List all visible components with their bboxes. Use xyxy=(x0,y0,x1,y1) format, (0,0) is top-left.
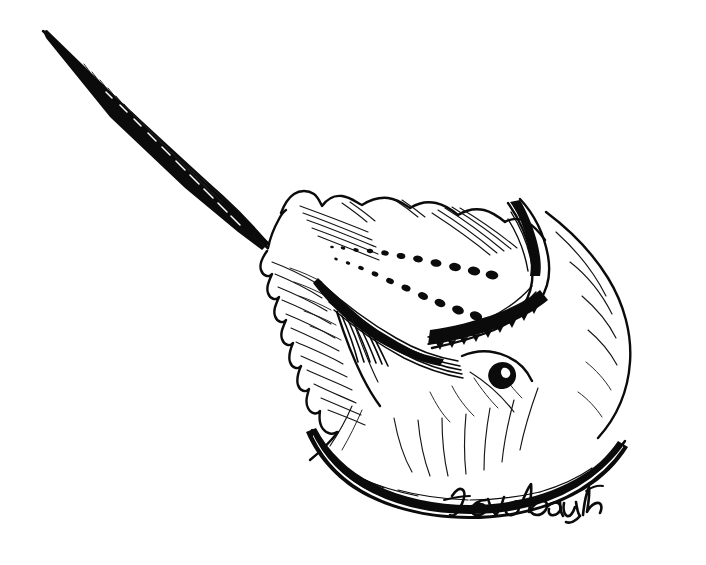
illustration-canvas: Tevebaugh Horseshoe Crab xyxy=(0,0,706,565)
horseshoe-crab-drawing xyxy=(0,0,706,565)
